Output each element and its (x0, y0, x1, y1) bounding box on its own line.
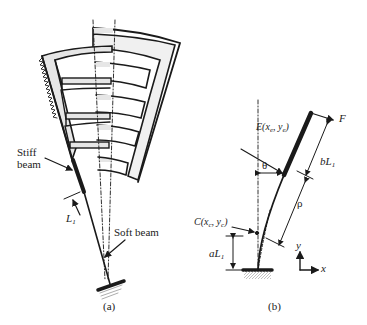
bL1-label: bL1 (320, 156, 335, 169)
rho-label: ρ (297, 198, 303, 210)
soft-beam-label: Soft beam (114, 227, 159, 239)
panel-a-mechanism (39, 20, 180, 299)
panel-b-caption: (b) (268, 301, 281, 313)
aL1-label: aL1 (209, 248, 224, 261)
C-point-label: C(xc, yc) (194, 217, 227, 229)
force-F-label: F (339, 113, 346, 125)
x-axis-label: x (321, 263, 326, 275)
L1-label: L1 (66, 213, 76, 226)
y-axis-label: y (296, 240, 301, 252)
E-point-label: E(xe, ye) (256, 122, 289, 134)
panel-a-caption: (a) (103, 301, 115, 313)
diagram-canvas (0, 0, 367, 325)
stiff-beam-label: Stiff beam (17, 147, 41, 170)
theta-label: θ (262, 160, 267, 172)
